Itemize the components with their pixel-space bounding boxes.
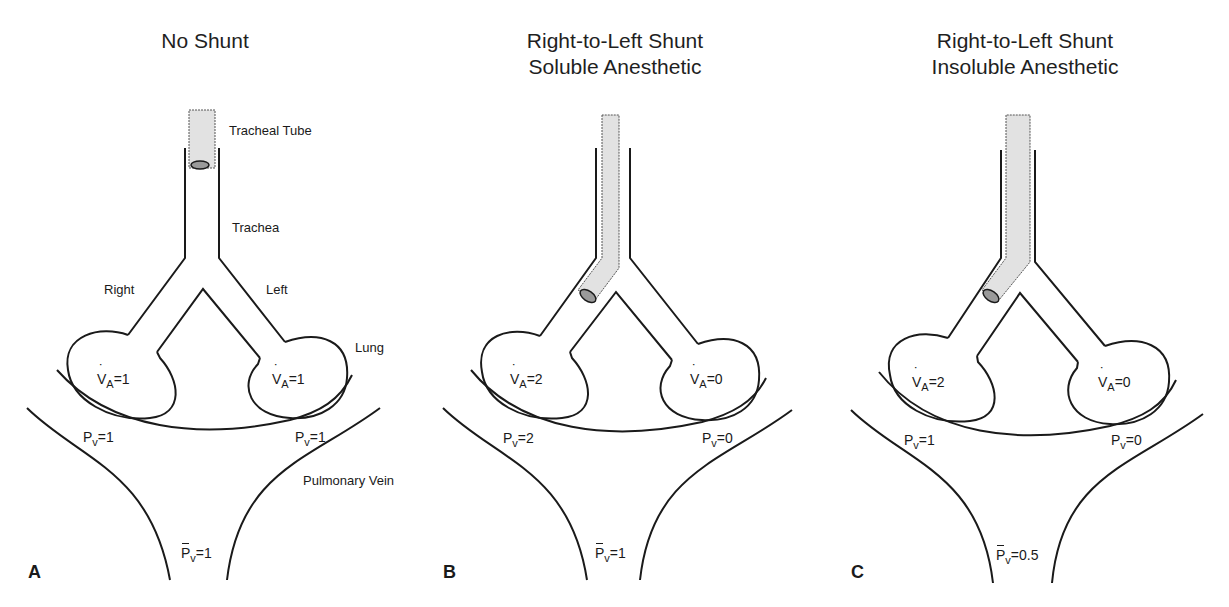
trachea-left-wall bbox=[219, 148, 285, 342]
panel-c-insoluble: Right-to-Left Shunt Insoluble Anesthetic… bbox=[820, 0, 1229, 607]
panel-letter: A bbox=[28, 562, 41, 583]
trachea-right-wall bbox=[540, 148, 596, 336]
endobronchial-tube bbox=[982, 115, 1030, 300]
right-lung-ventilation: VA=1 bbox=[97, 371, 130, 390]
trachea-right-wall bbox=[948, 150, 1001, 338]
panel-letter: B bbox=[443, 562, 456, 583]
panel-title: Right-to-Left Shunt Soluble Anesthetic bbox=[410, 28, 820, 80]
left-lung-ventilation: VA=1 bbox=[272, 371, 305, 390]
panel-a-no-shunt: No Shunt Tracheal Tube Trachea Right Lef… bbox=[0, 0, 410, 607]
trachea-left-wall bbox=[630, 148, 698, 344]
mixed-vein-pressure: Pv=1 bbox=[181, 545, 212, 564]
carina bbox=[570, 292, 672, 360]
mixed-vein-pressure: Pv=1 bbox=[595, 545, 626, 564]
trachea-left-wall bbox=[1035, 150, 1105, 346]
label-tracheal-tube: Tracheal Tube bbox=[229, 123, 312, 138]
airway-lung-diagram-a bbox=[0, 0, 410, 607]
tracheal-tube bbox=[189, 110, 215, 168]
carina bbox=[977, 293, 1078, 362]
trachea-right-wall bbox=[128, 148, 185, 335]
mixed-vein-pressure: Pv=0.5 bbox=[996, 547, 1038, 566]
right-lung-ventilation: VA=2 bbox=[510, 371, 543, 390]
endobronchial-tube bbox=[578, 115, 619, 300]
label-lung: Lung bbox=[355, 340, 384, 355]
right-vein-pressure: Pv=2 bbox=[503, 430, 534, 449]
right-vein-pressure: Pv=1 bbox=[83, 429, 114, 448]
left-vein-pressure: Pv=0 bbox=[1111, 432, 1142, 451]
left-vein-pressure: Pv=0 bbox=[702, 430, 733, 449]
airway-lung-diagram-c bbox=[820, 0, 1229, 607]
left-vein-pressure: Pv=1 bbox=[295, 429, 326, 448]
panel-title: Right-to-Left Shunt Insoluble Anesthetic bbox=[820, 28, 1229, 80]
left-lung-ventilation: VA=0 bbox=[690, 371, 723, 390]
panel-b-soluble: Right-to-Left Shunt Soluble Anesthetic V… bbox=[410, 0, 820, 607]
panel-title: No Shunt bbox=[0, 28, 410, 54]
airway-lung-diagram-b bbox=[410, 0, 820, 607]
tube-cuff-icon bbox=[191, 161, 209, 169]
label-pulmonary-vein: Pulmonary Vein bbox=[303, 473, 394, 488]
right-lung-ventilation: VA=2 bbox=[912, 374, 945, 393]
panel-letter: C bbox=[851, 562, 864, 583]
left-lung-ventilation: VA=0 bbox=[1098, 374, 1131, 393]
right-vein-pressure: Pv=1 bbox=[904, 432, 935, 451]
label-left: Left bbox=[266, 282, 288, 297]
carina bbox=[157, 289, 260, 358]
label-right: Right bbox=[104, 282, 134, 297]
label-trachea: Trachea bbox=[232, 220, 279, 235]
